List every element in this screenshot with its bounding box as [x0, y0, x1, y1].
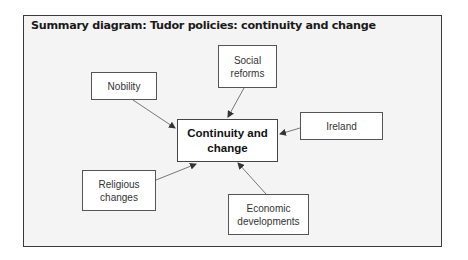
node-nobility: Nobility	[91, 72, 157, 100]
arrow-nobility	[133, 100, 175, 128]
arrow-economic-developments	[238, 163, 266, 194]
node-religious-changes: Religious changes	[82, 170, 156, 211]
node-continuity-and-change: Continuity and change	[177, 119, 278, 162]
node-ireland: Ireland	[300, 112, 383, 140]
arrow-religious-changes	[156, 164, 196, 180]
node-economic-developments: Economic developments	[228, 194, 309, 235]
arrow-ireland	[280, 128, 300, 134]
arrow-social-reforms	[228, 88, 244, 117]
node-social-reforms: Social reforms	[218, 45, 277, 88]
